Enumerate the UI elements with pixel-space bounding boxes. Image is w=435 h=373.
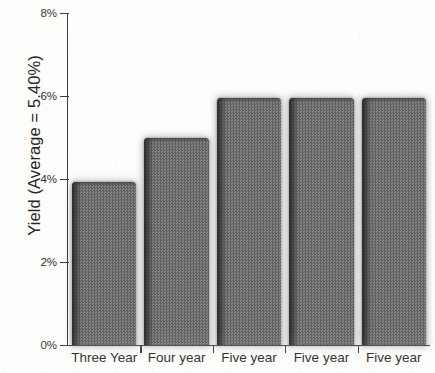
x-tick-label: Three Year — [71, 350, 137, 365]
y-axis-title: Yield (Average = 5.40%) — [25, 0, 44, 296]
bar-chart: Yield (Average = 5.40%) 8%6%4%2%0% Three… — [0, 0, 435, 373]
y-tick-mark — [60, 345, 69, 346]
x-tick-mark — [213, 345, 214, 353]
y-tick-label: 0% — [17, 339, 57, 351]
x-tick-label: Four year — [148, 350, 206, 365]
bar — [217, 98, 281, 345]
plot-area — [68, 13, 430, 345]
bar — [362, 98, 426, 345]
y-tick-label: 6% — [17, 90, 57, 102]
x-tick-mark — [285, 345, 286, 353]
x-tick-label: Five year — [221, 350, 277, 365]
x-tick-mark — [358, 345, 359, 353]
bar — [289, 98, 353, 345]
x-tick-label: Five year — [366, 350, 422, 365]
y-tick-label: 4% — [17, 173, 57, 185]
y-tick-label: 2% — [17, 256, 57, 268]
x-tick-mark — [140, 345, 141, 353]
y-tick-label: 8% — [17, 7, 57, 19]
x-tick-label: Five year — [294, 350, 350, 365]
bar — [144, 138, 208, 346]
bar — [72, 182, 136, 345]
